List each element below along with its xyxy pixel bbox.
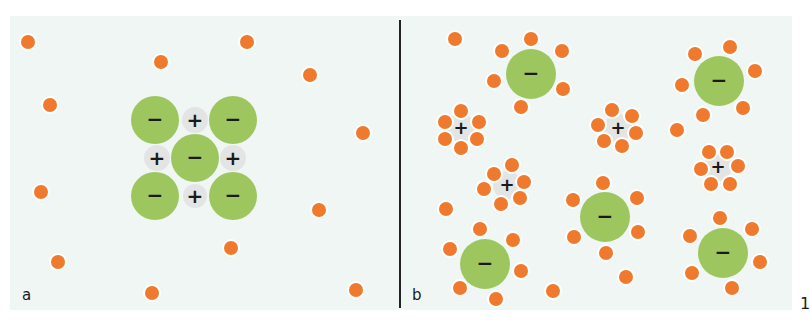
free-solvent-molecule (224, 241, 238, 255)
free-solvent-molecule (145, 286, 159, 300)
plus-charge-icon: + (453, 119, 468, 137)
minus-charge-icon: − (225, 185, 242, 205)
solvation-shell-molecule (630, 191, 644, 205)
minus-charge-icon: − (477, 253, 494, 273)
solvation-shell-molecule (454, 104, 468, 118)
solvation-shell-molecule (470, 132, 484, 146)
solvation-shell-molecule (723, 40, 737, 54)
solvation-shell-molecule (713, 211, 727, 225)
solvation-shell-molecule (438, 115, 452, 129)
figure-number: 1 (800, 294, 810, 313)
minus-charge-icon: − (225, 109, 242, 129)
solvation-shell-molecule (696, 108, 710, 122)
free-solvent-molecule (619, 270, 633, 284)
solvation-shell-molecule (683, 229, 697, 243)
diagram-background (10, 16, 792, 310)
solvation-shell-molecule (720, 145, 734, 159)
solvation-shell-molecule (473, 222, 487, 236)
solvation-shell-molecule (736, 101, 750, 115)
solvation-shell-molecule (489, 292, 503, 306)
solvation-shell-molecule (513, 191, 527, 205)
minus-charge-icon: − (711, 70, 728, 90)
solvation-shell-molecule (745, 222, 759, 236)
solvation-shell-molecule (725, 281, 739, 295)
panel-divider (399, 20, 401, 308)
minus-charge-icon: − (187, 147, 204, 167)
panel-a-label: a (22, 286, 31, 304)
solvation-shell-molecule (688, 47, 702, 61)
solvation-shell-molecule (567, 230, 581, 244)
solvation-shell-molecule (454, 141, 468, 155)
solvation-shell-molecule (685, 266, 699, 280)
plus-charge-icon: + (225, 148, 242, 168)
free-solvent-molecule (439, 202, 453, 216)
free-solvent-molecule (21, 35, 35, 49)
minus-charge-icon: − (147, 109, 164, 129)
solvation-shell-molecule (723, 177, 737, 191)
solvation-shell-molecule (675, 78, 689, 92)
solvation-shell-molecule (591, 118, 605, 132)
solvation-shell-molecule (566, 193, 580, 207)
panel-b-label: b (412, 286, 422, 304)
solvation-shell-molecule (453, 281, 467, 295)
minus-charge-icon: − (523, 63, 540, 83)
solvation-shell-molecule (556, 82, 570, 96)
solvation-shell-molecule (599, 246, 613, 260)
free-solvent-molecule (546, 284, 560, 298)
solvation-shell-molecule (748, 64, 762, 78)
solvation-shell-molecule (517, 175, 531, 189)
solvation-shell-molecule (704, 177, 718, 191)
free-solvent-molecule (349, 283, 363, 297)
plus-charge-icon: + (499, 176, 514, 194)
minus-charge-icon: − (715, 242, 732, 262)
solvation-shell-molecule (555, 44, 569, 58)
free-solvent-molecule (670, 123, 684, 137)
solvation-shell-molecule (524, 32, 538, 46)
free-solvent-molecule (34, 185, 48, 199)
solvation-shell-molecule (605, 103, 619, 117)
free-solvent-molecule (312, 203, 326, 217)
solvation-shell-molecule (625, 109, 639, 123)
solvation-shell-molecule (596, 176, 610, 190)
free-solvent-molecule (356, 126, 370, 140)
solvation-shell-molecule (615, 139, 629, 153)
minus-charge-icon: − (147, 185, 164, 205)
solvation-shell-molecule (438, 132, 452, 146)
free-solvent-molecule (240, 35, 254, 49)
solvation-shell-molecule (631, 225, 645, 239)
solvation-shell-molecule (597, 134, 611, 148)
plus-charge-icon: + (149, 148, 166, 168)
solvation-shell-molecule (629, 126, 643, 140)
solvation-shell-molecule (514, 100, 528, 114)
solvation-shell-molecule (487, 167, 501, 181)
solvation-shell-molecule (731, 159, 745, 173)
free-solvent-molecule (154, 55, 168, 69)
minus-charge-icon: − (597, 206, 614, 226)
solvation-shell-molecule (487, 74, 501, 88)
solvation-shell-molecule (694, 162, 708, 176)
solvation-shell-molecule (472, 115, 486, 129)
solvation-shell-molecule (514, 264, 528, 278)
solvation-shell-molecule (753, 255, 767, 269)
free-solvent-molecule (448, 32, 462, 46)
solvation-shell-molecule (494, 197, 508, 211)
solvation-shell-molecule (495, 44, 509, 58)
solvation-shell-molecule (477, 182, 491, 196)
free-solvent-molecule (51, 255, 65, 269)
plus-charge-icon: + (187, 110, 204, 130)
solvation-shell-molecule (506, 233, 520, 247)
solvation-shell-molecule (443, 242, 457, 256)
solvation-shell-molecule (702, 145, 716, 159)
solvation-shell-molecule (505, 158, 519, 172)
free-solvent-molecule (43, 98, 57, 112)
plus-charge-icon: + (710, 158, 725, 176)
plus-charge-icon: + (610, 119, 625, 137)
plus-charge-icon: + (187, 186, 204, 206)
free-solvent-molecule (303, 68, 317, 82)
